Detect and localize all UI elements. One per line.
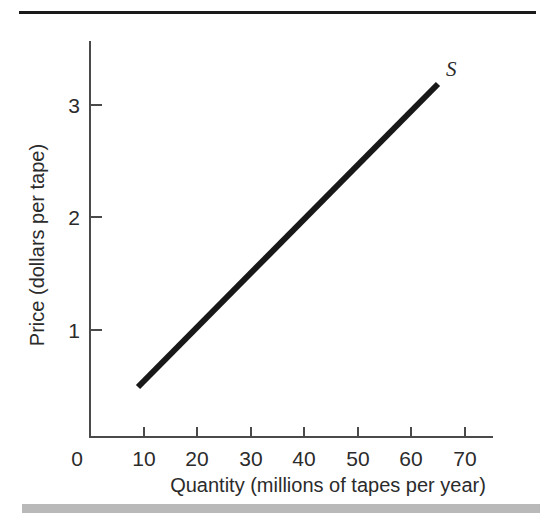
x-tick-label-20: 20 [185, 447, 208, 470]
y-tick-label-3: 3 [68, 94, 80, 117]
x-tick-label-60: 60 [399, 447, 422, 470]
x-tick-label-30: 30 [239, 447, 262, 470]
bottom-gray-band [22, 504, 540, 513]
origin-label-zero: 0 [71, 447, 83, 470]
x-axis-title: Quantity (millions of tapes per year) [170, 474, 486, 496]
y-axis-title: Price (dollars per tape) [26, 144, 48, 346]
supply-curve-label: S [446, 57, 457, 81]
y-tick-label-2: 2 [68, 206, 80, 229]
x-tick-label-50: 50 [346, 447, 369, 470]
supply-curve-figure: 3 2 1 10 20 30 40 50 60 70 0 S Quantity … [0, 0, 552, 526]
x-tick-label-10: 10 [132, 447, 155, 470]
x-tick-label-70: 70 [453, 447, 476, 470]
supply-curve-plot: 3 2 1 10 20 30 40 50 60 70 0 S Quantity … [0, 0, 552, 526]
y-tick-label-1: 1 [68, 319, 80, 342]
supply-curve-line [138, 84, 438, 387]
x-tick-label-40: 40 [292, 447, 315, 470]
